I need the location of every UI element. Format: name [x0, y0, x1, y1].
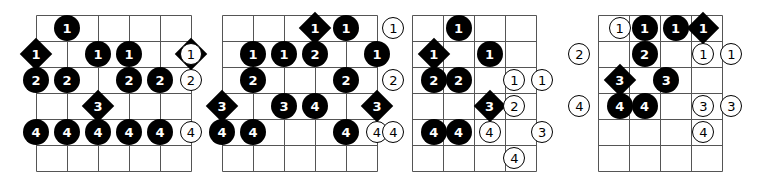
finger-number-label: 1 — [187, 48, 195, 61]
finger-number-label: 3 — [217, 100, 226, 113]
finger-marker-filled-circle-2: 2 — [116, 67, 142, 93]
finger-marker-filled-circle-3: 3 — [653, 67, 679, 93]
finger-number-label: 4 — [454, 126, 463, 139]
finger-marker-open-circle-3: 3 — [720, 95, 742, 117]
finger-number-label: 1 — [671, 22, 680, 35]
finger-number-label: 4 — [124, 126, 133, 139]
finger-marker-open-circle-1: 1 — [692, 43, 714, 65]
finger-marker-open-circle-1: 1 — [382, 17, 404, 39]
finger-marker-filled-circle-2: 2 — [147, 67, 173, 93]
finger-marker-filled-diamond-1: 1 — [686, 11, 720, 45]
finger-number-label: 2 — [31, 74, 40, 87]
finger-marker-filled-circle-1: 1 — [85, 41, 111, 67]
finger-number-label: 3 — [93, 100, 102, 113]
finger-number-label: 3 — [699, 100, 707, 113]
finger-marker-open-circle-1: 1 — [720, 43, 742, 65]
finger-number-label: 1 — [616, 22, 624, 35]
finger-marker-filled-diamond-1: 1 — [417, 37, 451, 71]
finger-marker-filled-circle-4: 4 — [116, 119, 142, 145]
finger-marker-filled-circle-1: 1 — [333, 15, 359, 41]
finger-marker-filled-circle-2: 2 — [333, 67, 359, 93]
finger-marker-filled-circle-4: 4 — [632, 93, 658, 119]
finger-number-label: 1 — [429, 48, 438, 61]
finger-number-label: 3 — [279, 100, 288, 113]
finger-marker-open-circle-1: 1 — [503, 69, 525, 91]
finger-marker-filled-circle-2: 2 — [23, 67, 49, 93]
finger-marker-filled-circle-4: 4 — [333, 119, 359, 145]
finger-number-label: 2 — [429, 74, 438, 87]
finger-number-label: 2 — [575, 48, 583, 61]
finger-number-label: 1 — [727, 48, 735, 61]
finger-number-label: 2 — [510, 100, 518, 113]
finger-number-label: 4 — [62, 126, 71, 139]
finger-marker-filled-circle-2: 2 — [54, 67, 80, 93]
finger-number-label: 2 — [248, 74, 257, 87]
finger-number-label: 4 — [389, 126, 397, 139]
finger-marker-open-circle-4: 4 — [692, 121, 714, 143]
finger-marker-filled-circle-1: 1 — [632, 15, 658, 41]
finger-marker-filled-diamond-3: 3 — [360, 89, 394, 123]
finger-number-label: 4 — [485, 126, 493, 139]
finger-marker-open-circle-4: 4 — [479, 121, 501, 143]
finger-marker-filled-diamond-1: 1 — [19, 37, 53, 71]
finger-number-label: 3 — [538, 126, 546, 139]
finger-number-label: 1 — [341, 22, 350, 35]
finger-marker-filled-circle-1: 1 — [364, 41, 390, 67]
finger-marker-filled-circle-4: 4 — [209, 119, 235, 145]
finger-marker-filled-circle-4: 4 — [23, 119, 49, 145]
finger-marker-filled-circle-2: 2 — [446, 67, 472, 93]
finger-marker-filled-circle-4: 4 — [85, 119, 111, 145]
finger-marker-filled-circle-4: 4 — [302, 93, 328, 119]
finger-marker-open-circle-4: 4 — [503, 147, 525, 169]
fretboard-diagram-1: 11111222223444444 — [36, 0, 191, 191]
finger-number-label: 3 — [615, 74, 624, 87]
finger-number-label: 1 — [538, 74, 546, 87]
finger-marker-open-circle-1: 1 — [531, 69, 553, 91]
finger-number-label: 4 — [575, 100, 583, 113]
finger-number-label: 4 — [373, 126, 381, 139]
finger-number-label: 1 — [279, 48, 288, 61]
finger-number-label: 1 — [454, 22, 463, 35]
finger-marker-filled-circle-1: 1 — [116, 41, 142, 67]
finger-marker-filled-circle-4: 4 — [147, 119, 173, 145]
finger-number-label: 1 — [485, 48, 494, 61]
finger-number-label: 2 — [640, 48, 649, 61]
finger-marker-open-circle-4: 4 — [382, 121, 404, 143]
finger-marker-filled-circle-4: 4 — [607, 93, 633, 119]
finger-number-label: 1 — [699, 22, 708, 35]
finger-number-label: 4 — [155, 126, 164, 139]
finger-number-label: 2 — [124, 74, 133, 87]
finger-number-label: 2 — [310, 48, 319, 61]
finger-number-label: 2 — [155, 74, 164, 87]
finger-number-label: 3 — [727, 100, 735, 113]
finger-marker-filled-circle-1: 1 — [477, 41, 503, 67]
finger-number-label: 1 — [372, 48, 381, 61]
finger-marker-filled-circle-2: 2 — [240, 67, 266, 93]
finger-marker-filled-circle-4: 4 — [446, 119, 472, 145]
finger-number-label: 1 — [699, 48, 707, 61]
finger-marker-filled-circle-4: 4 — [421, 119, 447, 145]
finger-marker-open-circle-2: 2 — [382, 69, 404, 91]
finger-marker-open-circle-2: 2 — [568, 43, 590, 65]
finger-marker-open-circle-3: 3 — [531, 121, 553, 143]
finger-marker-filled-circle-4: 4 — [240, 119, 266, 145]
finger-marker-open-circle-1: 1 — [180, 43, 202, 65]
finger-number-label: 1 — [248, 48, 257, 61]
finger-number-label: 2 — [454, 74, 463, 87]
finger-marker-filled-circle-2: 2 — [302, 41, 328, 67]
finger-marker-open-circle-1: 1 — [609, 17, 631, 39]
fretboard-diagram-4: 1111221133444334 — [598, 0, 722, 191]
finger-marker-filled-circle-1: 1 — [663, 15, 689, 41]
finger-number-label: 2 — [389, 74, 397, 87]
finger-number-label: 1 — [510, 74, 518, 87]
finger-number-label: 4 — [93, 126, 102, 139]
finger-marker-open-circle-2: 2 — [180, 69, 202, 91]
finger-marker-filled-circle-4: 4 — [54, 119, 80, 145]
finger-marker-filled-diamond-1: 1 — [298, 11, 332, 45]
finger-number-label: 2 — [341, 74, 350, 87]
finger-number-label: 4 — [248, 126, 257, 139]
finger-marker-filled-diamond-3: 3 — [81, 89, 115, 123]
fretboard-diagram-3: 11112221132444434 — [412, 0, 536, 191]
finger-number-label: 4 — [429, 126, 438, 139]
finger-marker-filled-diamond-3: 3 — [603, 63, 637, 97]
